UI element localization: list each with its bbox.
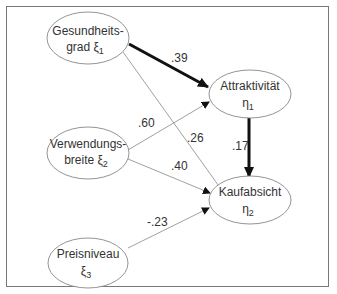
svg-text:Preisniveau: Preisniveau xyxy=(57,247,120,261)
coef-xi2-eta2: .40 xyxy=(171,159,188,173)
svg-text:Kaufabsicht: Kaufabsicht xyxy=(219,185,282,199)
svg-text:Attraktivität: Attraktivität xyxy=(220,79,280,93)
coef-eta1-eta2: .17 xyxy=(232,139,249,153)
coef-xi3-eta2: -.23 xyxy=(147,215,168,229)
node-preisniveau: Preisniveau ξ3 xyxy=(48,238,128,288)
node-kaufabsicht: Kaufabsicht η2 xyxy=(209,176,291,224)
node-verwendungsbreite: Verwendungs- breite ξ2 xyxy=(47,127,129,179)
svg-text:Verwendungs-: Verwendungs- xyxy=(50,137,127,151)
coef-xi1-eta1: .39 xyxy=(171,51,188,65)
node-gesundheitsgrad: Gesundheits- grad ξ1 xyxy=(47,12,129,64)
edge-xi2-eta2 xyxy=(128,159,210,193)
edge-xi3-eta2 xyxy=(128,208,209,248)
svg-text:grad ξ1: grad ξ1 xyxy=(66,40,104,56)
edge-xi1-eta1 xyxy=(129,44,208,87)
coef-xi1-eta2: .26 xyxy=(187,131,204,145)
svg-text:Gesundheits-: Gesundheits- xyxy=(52,24,123,38)
svg-text:breite ξ2: breite ξ2 xyxy=(64,153,108,169)
coef-xi2-eta1: .60 xyxy=(138,116,155,130)
node-attraktivitaet: Attraktivität η1 xyxy=(209,70,291,118)
path-diagram: .39 .26 .60 .40 -.23 .17 Gesundheits- gr… xyxy=(0,0,337,294)
